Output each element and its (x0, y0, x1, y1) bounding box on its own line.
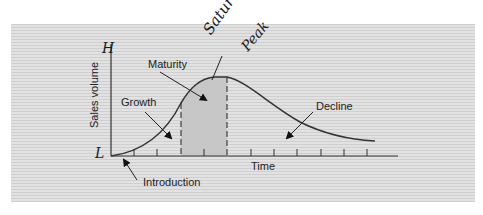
handwritten-high-mark: H (102, 40, 114, 56)
maturity-label: Maturity (148, 58, 187, 70)
introduction-arrow (124, 160, 137, 180)
decline-label: Decline (316, 100, 353, 112)
introduction-label: Introduction (143, 176, 200, 188)
y-axis-label: Sales volume (88, 62, 100, 128)
product-life-cycle-chart (0, 0, 483, 215)
x-axis-label: Time (251, 160, 275, 172)
sales-curve (111, 77, 375, 156)
growth-label: Growth (121, 96, 156, 108)
x-axis-ticks (134, 149, 367, 156)
handwritten-low-mark: L (95, 145, 104, 161)
